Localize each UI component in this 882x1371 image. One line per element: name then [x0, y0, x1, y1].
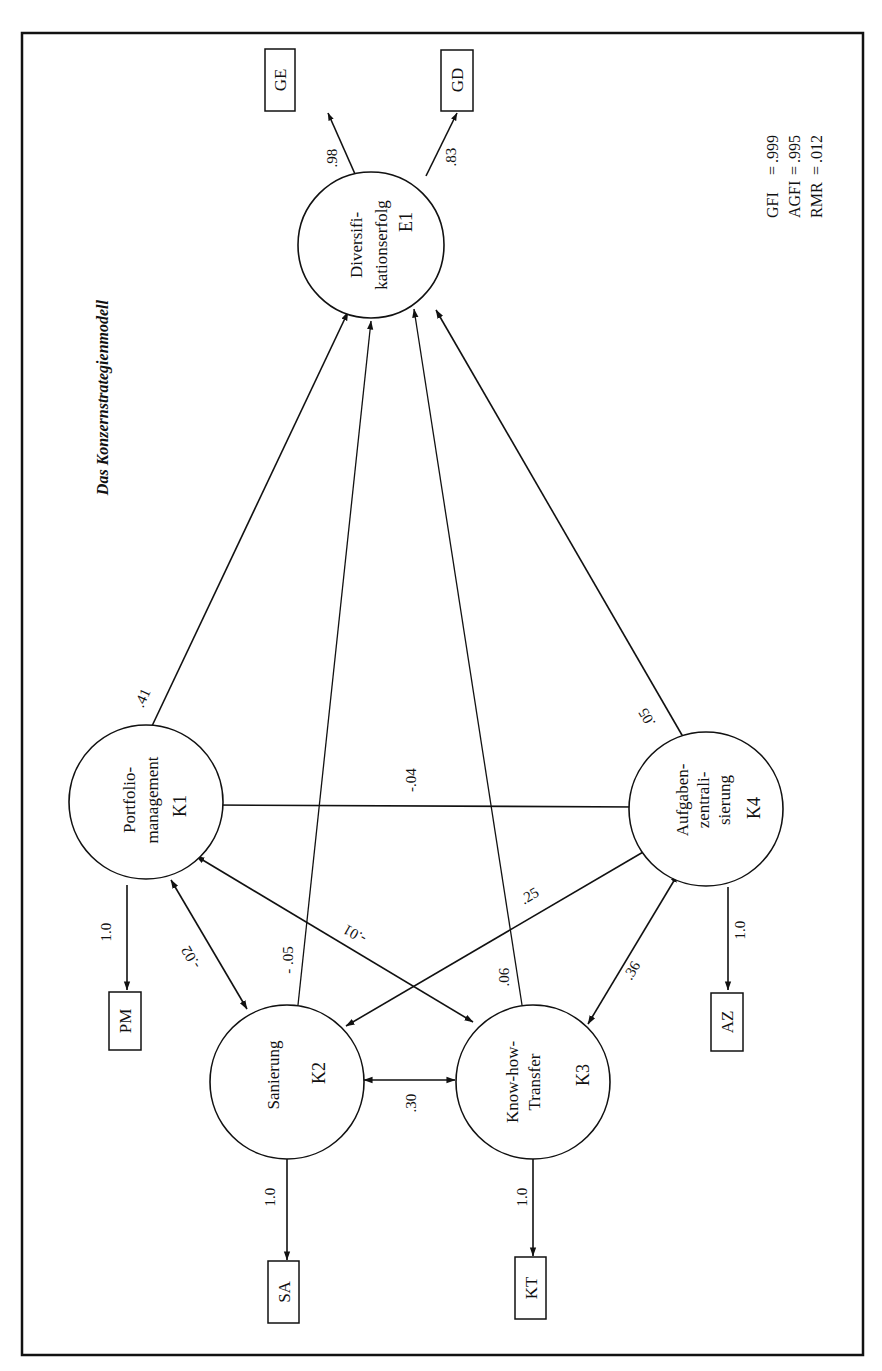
coef-k3-e1: .06 — [496, 967, 512, 986]
indicator-ge: GE — [265, 49, 295, 111]
indicator-gd: GD — [441, 50, 473, 111]
fit-gfi-name: GFI — [764, 192, 781, 218]
path-k1-e1 — [152, 312, 348, 726]
fit-indices: GFI = .999 AGFI = .995 RMR = .012 — [764, 135, 825, 218]
k2-label-line1: Sanierung — [264, 1040, 283, 1109]
path-k3-e1 — [414, 309, 522, 1005]
az-label: AZ — [718, 1011, 737, 1034]
path-k4-e1 — [436, 310, 686, 742]
indicator-sa: SA — [268, 1261, 299, 1323]
corr-k1-k2 — [171, 880, 247, 1009]
corr-k2-k4 — [346, 848, 650, 1026]
coef-ge: .98 — [324, 149, 340, 168]
k4-label-line2: zentrali- — [694, 771, 713, 828]
indicator-az: AZ — [711, 993, 743, 1051]
latent-k1: Portfolio- management K1 — [69, 725, 223, 879]
k3-id: K3 — [573, 1064, 593, 1086]
indicator-pm: PM — [109, 992, 141, 1050]
coef-az: 1.0 — [732, 921, 748, 940]
fit-rmr-name: RMR — [808, 182, 825, 218]
kt-label: KT — [522, 1276, 541, 1299]
coef-k2-k4: .25 — [517, 884, 541, 907]
k2-id: K2 — [309, 1062, 329, 1084]
coef-gd: .83 — [443, 148, 459, 167]
path-diagram: Das Konzernstrategienmodell GFI = .999 A… — [0, 0, 882, 1371]
coef-k1-k2: -.02 — [178, 943, 204, 972]
pm-label: PM — [116, 1009, 135, 1034]
coef-kt: 1.0 — [514, 1188, 530, 1207]
e1-id: E1 — [396, 212, 416, 232]
diagram-title: Das Konzernstrategienmodell — [94, 299, 112, 496]
latent-k3: Know-how- Transfer K3 — [456, 1005, 610, 1159]
coef-k2-e1: - .05 — [280, 946, 296, 974]
e1-label-line1: Diversifi- — [347, 212, 366, 278]
coef-k2-k3: .30 — [403, 1094, 419, 1113]
coef-k1-k4: -.04 — [403, 768, 419, 792]
k1-label-line1: Portfolio- — [120, 767, 139, 833]
corr-k1-k4 — [212, 805, 639, 807]
k3-label-line1: Know-how- — [503, 1041, 522, 1123]
coef-k4-e1: .05 — [635, 705, 658, 729]
coef-sa: 1.0 — [262, 1188, 278, 1207]
k3-label-line2: Transfer — [525, 1053, 544, 1110]
latent-k2: Sanierung K2 — [210, 1005, 364, 1159]
corr-k1-k3 — [196, 856, 473, 1022]
latent-k4: Aufgaben- zentrali- sierung K4 — [629, 732, 783, 886]
ge-label: GE — [271, 69, 290, 92]
sa-label: SA — [275, 1280, 294, 1302]
fit-agfi-value: .995 — [786, 135, 803, 163]
fit-rmr-value: .012 — [808, 135, 825, 163]
k4-id: K4 — [744, 797, 764, 819]
k1-id: K1 — [170, 795, 190, 817]
indicator-kt: KT — [515, 1257, 546, 1319]
fit-agfi-eq: = — [786, 166, 803, 175]
latent-e1: Diversifi- kationserfolg E1 — [298, 172, 444, 318]
path-k2-e1 — [298, 321, 371, 1005]
coef-k1-k3: -.01 — [340, 921, 369, 947]
fit-agfi-name: AGFI — [786, 181, 803, 218]
e1-label-line2: kationserfolg — [372, 200, 391, 290]
fit-gfi-eq: = — [764, 166, 781, 175]
k1-label-line2: management — [143, 756, 162, 843]
fit-gfi-value: .999 — [764, 135, 781, 163]
coef-k3-k4: .36 — [620, 958, 643, 983]
k4-label-line3: sierung — [715, 774, 734, 825]
fit-rmr-eq: = — [808, 166, 825, 175]
k4-label-line1: Aufgaben- — [673, 763, 692, 836]
gd-label: GD — [448, 68, 467, 93]
coef-k1-e1: .41 — [131, 686, 153, 710]
coef-pm: 1.0 — [98, 923, 114, 942]
corr-k3-k4 — [588, 874, 678, 1024]
